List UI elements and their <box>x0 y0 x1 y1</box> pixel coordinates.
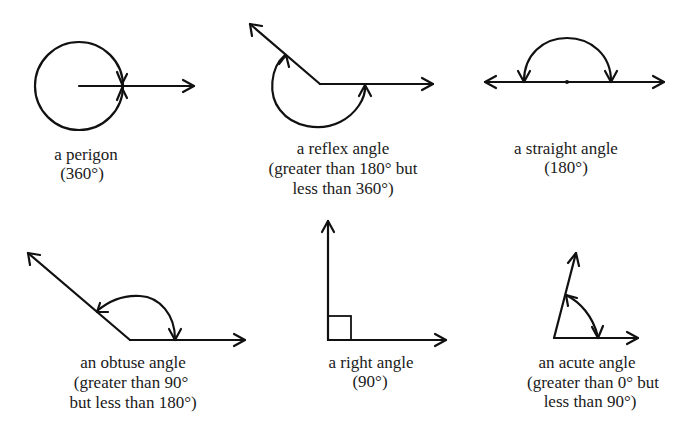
acute-label-line-2: (greater than 0° but <box>527 373 659 392</box>
perigon-figure <box>35 42 194 130</box>
obtuse-upper-ray <box>28 253 130 340</box>
acute-label-line-1: an acute angle <box>538 353 635 372</box>
right-angle-marker <box>328 316 351 340</box>
straight-label-line-1: a straight angle <box>514 139 618 158</box>
straight-figure <box>485 38 664 88</box>
right-label-line-2: (90°) <box>352 372 387 391</box>
acute-label-line-3: less than 90°) <box>544 392 637 411</box>
straight-label-line-2: (180°) <box>544 158 588 177</box>
angle-types-diagram: a perigon (360°) a reflex angle (greater… <box>0 0 689 430</box>
reflex-figure <box>250 24 433 127</box>
reflex-arc <box>272 55 365 127</box>
obtuse-figure <box>28 253 245 346</box>
obtuse-label-line-1: an obtuse angle <box>80 353 186 372</box>
obtuse-label-line-2: (greater than 90° <box>74 373 188 392</box>
right-figure <box>322 221 446 346</box>
obtuse-arc <box>97 296 175 339</box>
reflex-label-line-1: a reflex angle <box>297 139 390 158</box>
acute-figure <box>554 253 638 344</box>
right-label-line-1: a right angle <box>329 353 414 372</box>
perigon-label-line-2: (360°) <box>60 164 104 183</box>
reflex-label-line-3: less than 360°) <box>292 179 393 198</box>
straight-arc <box>524 38 611 81</box>
straight-vertex-dot <box>565 80 569 84</box>
perigon-label-line-1: a perigon <box>54 145 118 164</box>
reflex-arc-arrow-start-icon <box>279 55 289 67</box>
obtuse-label-line-3: but less than 180°) <box>69 393 196 412</box>
reflex-label-line-2: (greater than 180° but <box>269 159 418 178</box>
